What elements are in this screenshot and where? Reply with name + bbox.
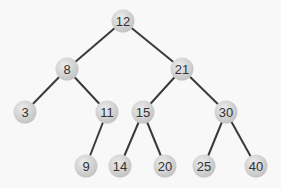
node-label: 12 (116, 14, 130, 29)
tree-node-8: 8 (56, 58, 79, 81)
tree-node-15: 15 (132, 101, 155, 124)
node-label: 9 (82, 159, 89, 174)
tree-node-25: 25 (193, 155, 216, 178)
node-label: 25 (197, 159, 211, 174)
node-label: 30 (219, 105, 233, 120)
tree-node-20: 20 (154, 155, 177, 178)
node-label: 11 (100, 105, 114, 120)
tree-node-40: 40 (245, 155, 268, 178)
tree-node-21: 21 (171, 58, 194, 81)
tree-node-14: 14 (109, 155, 132, 178)
tree-node-12: 12 (112, 10, 135, 33)
node-label: 14 (113, 159, 127, 174)
tree-node-3: 3 (14, 101, 37, 124)
node-label: 21 (175, 62, 189, 77)
node-label: 3 (21, 105, 28, 120)
tree-node-30: 30 (215, 101, 238, 124)
node-label: 15 (136, 105, 150, 120)
tree-node-9: 9 (75, 155, 98, 178)
edges-layer (25, 21, 256, 166)
tree-node-11: 11 (96, 101, 119, 124)
node-label: 40 (249, 159, 263, 174)
binary-tree-diagram: 128213111530914202540 (0, 0, 281, 188)
node-label: 20 (158, 159, 172, 174)
node-label: 8 (63, 62, 70, 77)
